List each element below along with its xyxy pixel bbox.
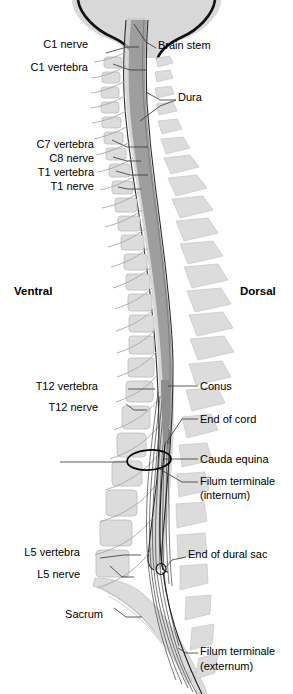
vertebral-body [124, 254, 147, 270]
spinous-process [185, 595, 211, 620]
label-t1-nerve: T1 nerve [0, 180, 94, 193]
label-t12-nerve: T12 nerve [0, 401, 98, 414]
label-c8-nerve: C8 nerve [0, 152, 94, 165]
spinous-process [184, 264, 228, 288]
sacrum-body [93, 578, 199, 684]
vertebral-body [117, 433, 146, 457]
label-dura: Dura [178, 91, 202, 104]
spinous-process [190, 336, 234, 360]
orientation-label-dorsal: Dorsal [240, 285, 276, 298]
vertebral-body [104, 132, 123, 144]
label-t12-vertebra: T12 vertebra [0, 380, 98, 393]
vertebral-body [112, 461, 142, 486]
vertebral-body [129, 315, 154, 332]
spinous-process [155, 70, 173, 82]
vertebral-body [122, 406, 150, 429]
label-t1-vertebra: T1 vertebra [0, 166, 94, 179]
vertebral-body [129, 336, 154, 354]
spinous-process [180, 241, 223, 264]
spinous-process [161, 137, 190, 154]
vertebral-body [128, 358, 154, 377]
vertebral-body [102, 72, 120, 83]
spinous-process [164, 155, 199, 174]
label-c1-vertebra: C1 vertebra [0, 61, 88, 74]
label-filum-internum: Filum terminale [200, 475, 275, 488]
label-end-of-cord: End of cord [200, 413, 256, 426]
label-cauda-equina: Cauda equina [200, 453, 269, 466]
label-filum-internum-2: (internum) [200, 489, 250, 502]
orientation-label-ventral: Ventral [14, 285, 52, 298]
label-end-of-dural-sac: End of dural sac [188, 548, 268, 561]
label-filum-externum: Filum terminale [200, 645, 275, 658]
label-brain-stem: Brain stem [158, 39, 211, 52]
spinous-process [176, 502, 207, 528]
vertebral-body [102, 117, 121, 128]
label-l5-vertebra: L5 vertebra [0, 546, 80, 559]
spinous-process [155, 86, 174, 98]
vertebral-body-l5 [96, 550, 129, 577]
vertebral-body [100, 520, 132, 546]
sacrum-group [93, 578, 207, 694]
label-c1-nerve: C1 nerve [0, 38, 88, 51]
spinous-process [180, 564, 208, 590]
anatomy-illustration [0, 0, 293, 694]
spinous-process [172, 196, 213, 218]
label-filum-externum-2: (externum) [200, 660, 253, 673]
vertebral-body [101, 102, 119, 113]
vertebral-body [109, 164, 130, 177]
label-conus: Conus [200, 380, 232, 393]
spinous-process [189, 312, 233, 336]
spinous-process [158, 119, 182, 134]
spinous-process [156, 56, 173, 67]
spinous-process [176, 218, 218, 241]
spinous-process [187, 288, 231, 312]
spinous-process [168, 175, 207, 196]
label-l5-nerve: L5 nerve [0, 568, 80, 581]
label-sacrum: Sacrum [0, 608, 103, 621]
spinal-cord-diagram: C1 nerve C1 vertebra C7 vertebra C8 nerv… [0, 0, 293, 694]
label-c7-vertebra: C7 vertebra [0, 138, 94, 151]
vertebral-body [106, 490, 137, 516]
vertebral-body [101, 87, 119, 98]
